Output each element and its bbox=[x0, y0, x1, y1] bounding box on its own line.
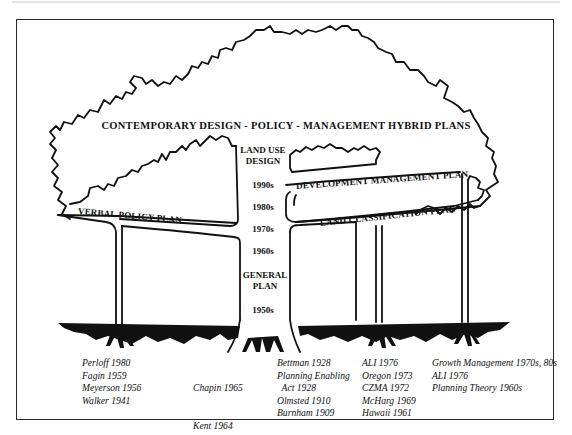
decade-1960s: 1960s bbox=[238, 246, 288, 256]
ground-left bbox=[58, 323, 240, 344]
general-plan-line-2: PLAN bbox=[240, 281, 290, 292]
left-inner-canopy bbox=[70, 136, 236, 204]
general-plan-line-1: GENERAL bbox=[240, 270, 290, 281]
citation: Oregon 1973 bbox=[362, 370, 416, 383]
decade-1990s: 1990s bbox=[238, 180, 288, 190]
citation: Act 1928 bbox=[277, 382, 350, 395]
citation: McHarg 1969 bbox=[362, 395, 416, 408]
decade-1980s: 1980s bbox=[238, 202, 288, 212]
citation: Perloff 1980 bbox=[82, 357, 141, 370]
dev-mgmt-inner bbox=[294, 195, 296, 205]
citation: Kent 1964 bbox=[193, 420, 262, 433]
citations-verbal-policy: Perloff 1980 Fagin 1959 Meyerson 1956 Wa… bbox=[82, 357, 141, 407]
citation: Planning Theory 1960s bbox=[432, 382, 557, 395]
citation: Bettman 1928 bbox=[277, 357, 350, 370]
right-canopy-tuft bbox=[468, 176, 484, 200]
verbal-lower-bound bbox=[122, 226, 240, 320]
citation: Olmsted 1910 bbox=[277, 395, 350, 408]
citation: ALI 1976 bbox=[432, 370, 557, 383]
ground-band bbox=[58, 322, 510, 352]
citation: Burnham 1909 bbox=[277, 407, 350, 420]
decade-1950s: 1950s bbox=[238, 305, 288, 315]
land-use-design-label: LAND USE DESIGN bbox=[238, 145, 288, 167]
citation: Growth Management 1970s, 80s bbox=[432, 357, 557, 370]
ground-right bbox=[298, 322, 510, 342]
decade-1970s: 1970s bbox=[238, 224, 288, 234]
citation: ALI 1976 bbox=[362, 357, 416, 370]
land-use-design-line-1: LAND USE bbox=[238, 145, 288, 156]
citations-development-management: Growth Management 1970s, 80s ALI 1976 Pl… bbox=[432, 357, 557, 395]
general-plan-label: GENERAL PLAN bbox=[240, 270, 290, 292]
citations-land-classification: ALI 1976 Oregon 1973 CZMA 1972 McHarg 19… bbox=[362, 357, 416, 420]
citation: Meyerson 1956 bbox=[82, 382, 141, 395]
citations-general-plan-a: Chapin 1965 Kent 1964 701 Requirements 1… bbox=[193, 357, 262, 435]
diagram-title: CONTEMPORARY DESIGN - POLICY - MANAGEMEN… bbox=[0, 120, 572, 131]
citation: CZMA 1972 bbox=[362, 382, 416, 395]
citation: Walker 1941 bbox=[82, 395, 141, 408]
verbal-branch-bottom bbox=[58, 215, 116, 325]
land-use-design-line-2: DESIGN bbox=[238, 156, 288, 167]
citation: Chapin 1965 bbox=[193, 382, 262, 395]
trunk-right-edge bbox=[290, 222, 356, 320]
general-trunk-right bbox=[290, 232, 300, 352]
root-center bbox=[242, 336, 284, 352]
citation: Fagin 1959 bbox=[82, 370, 141, 383]
citation: Hawaii 1961 bbox=[362, 407, 416, 420]
land-use-canopy bbox=[290, 144, 380, 172]
citation: Planning Enabling bbox=[277, 370, 350, 383]
citations-general-plan-b: Bettman 1928 Planning Enabling Act 1928 … bbox=[277, 357, 350, 420]
